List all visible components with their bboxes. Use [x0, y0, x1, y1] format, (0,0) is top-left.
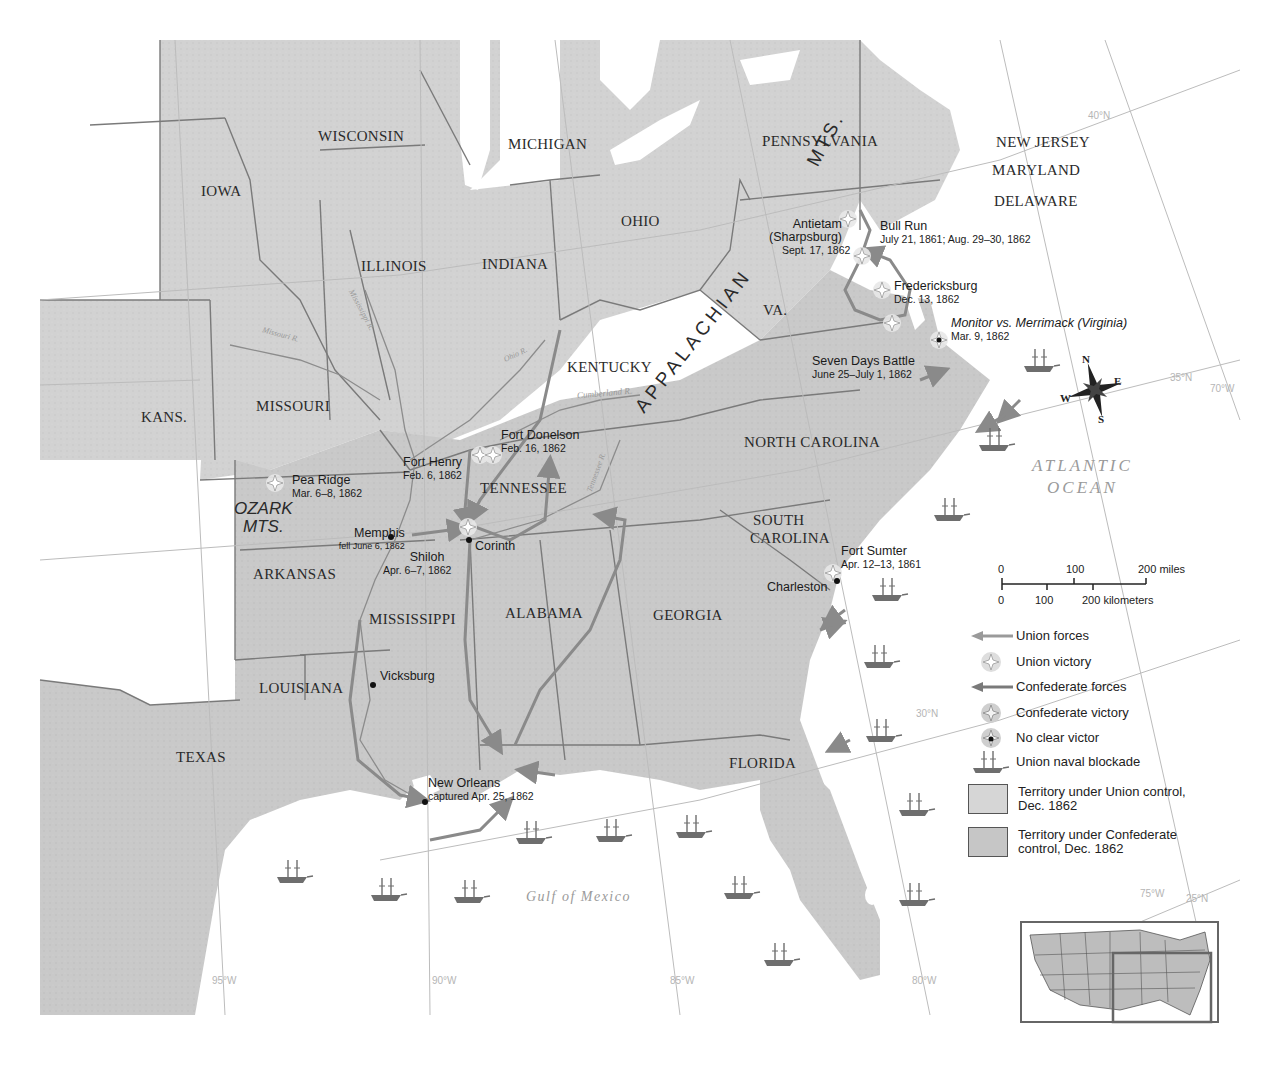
state-label-kansas: KANS.	[141, 409, 187, 426]
battle-label-antietam: Antietam (Sharpsburg) Sept. 17, 1862	[782, 218, 842, 257]
legend-confederate-victory: Confederate victory	[968, 704, 1129, 722]
city-label-charleston: Charleston	[767, 581, 827, 594]
scale-bar	[1002, 578, 1146, 590]
legend-confederate-forces: Confederate forces	[968, 678, 1127, 696]
scale-km-0: 0	[998, 594, 1004, 606]
legend-confederate-territory: Territory under Confederatecontrol, Dec.…	[968, 827, 1177, 857]
state-label-illinois: ILLINOIS	[361, 258, 427, 275]
union-territory-swatch	[968, 784, 1008, 814]
battle-label-pea-ridge: Pea Ridge Mar. 6–8, 1862	[292, 474, 362, 500]
legend-no-clear-victor: No clear victor	[968, 729, 1099, 747]
lon-label-70w: 70°W	[1210, 383, 1235, 394]
compass-s: S	[1098, 413, 1104, 425]
compass-n: N	[1082, 353, 1090, 365]
pea-ridge-marker	[266, 474, 284, 492]
lon-label-90w: 90°W	[432, 975, 457, 986]
legend-union-forces: Union forces	[968, 627, 1089, 645]
scale-miles-100: 100	[1066, 563, 1084, 575]
battle-label-monitor-merrimack: Monitor vs. Merrimack (Virginia) Mar. 9,…	[951, 317, 1127, 343]
fredericksburg-marker	[873, 281, 891, 299]
mountain-label-ozark-mts: MTS.	[243, 518, 284, 536]
scale-miles-0: 0	[998, 563, 1004, 575]
state-label-louisiana: LOUISIANA	[259, 680, 343, 697]
state-label-kentucky: KENTUCKY	[567, 359, 652, 376]
state-label-iowa: IOWA	[201, 183, 241, 200]
battle-label-fredericksburg: Fredericksburg Dec. 13, 1862	[894, 280, 977, 306]
state-label-missouri: MISSOURI	[256, 398, 330, 415]
ship-icon	[968, 753, 1014, 771]
mountain-label-ozark: OZARK	[234, 500, 293, 518]
scale-km-200: 200 kilometers	[1082, 594, 1154, 606]
confederate-territory-swatch	[968, 827, 1008, 857]
battle-label-shiloh: Shiloh Apr. 6–7, 1862	[383, 551, 451, 577]
compass-w: W	[1060, 392, 1071, 404]
city-label-vicksburg: Vicksburg	[380, 670, 435, 683]
city-label-new-orleans: New Orleans captured Apr. 25, 1862	[428, 777, 534, 803]
lat-label-25n: 25°N	[1186, 893, 1208, 904]
scale-km-100: 100	[1035, 594, 1053, 606]
state-label-mississippi: MISSISSIPPI	[369, 611, 456, 628]
state-label-ohio: OHIO	[621, 213, 660, 230]
state-label-georgia: GEORGIA	[653, 607, 723, 624]
state-label-delaware: DELAWARE	[994, 193, 1078, 210]
state-label-tennessee: TENNESSEE	[480, 480, 567, 497]
state-label-south-carolina-1: SOUTH	[753, 512, 805, 529]
state-label-south-carolina-2: CAROLINA	[750, 530, 830, 547]
union-victory-burst-icon	[968, 653, 1014, 671]
battle-label-bull-run: Bull Run July 21, 1861; Aug. 29–30, 1862	[880, 220, 1031, 246]
battle-label-seven-days: Seven Days Battle June 25–July 1, 1862	[812, 355, 915, 381]
city-label-corinth: Corinth	[475, 540, 515, 553]
state-label-arkansas: ARKANSAS	[253, 566, 336, 583]
inset-locator-map	[1021, 922, 1218, 1022]
civil-war-map	[0, 0, 1280, 1083]
no-clear-victor-burst-icon	[968, 729, 1014, 747]
bull-run-marker	[853, 247, 871, 265]
battle-label-fort-sumter: Fort Sumter Apr. 12–13, 1861	[841, 545, 921, 571]
state-label-alabama: ALABAMA	[505, 605, 583, 622]
lon-label-80w: 80°W	[912, 975, 937, 986]
seven-days-marker	[883, 314, 901, 332]
gulf-label-mexico: Gulf of Mexico	[526, 886, 631, 908]
battle-label-fort-henry: Fort Henry Feb. 6, 1862	[403, 456, 462, 482]
legend-naval-blockade: Union naval blockade	[968, 753, 1140, 771]
confederate-victory-burst-icon	[968, 704, 1014, 722]
lon-label-95w: 95°W	[212, 975, 237, 986]
legend-union-victory: Union victory	[968, 653, 1091, 671]
union-arrow-icon	[968, 627, 1014, 645]
state-label-texas: TEXAS	[176, 749, 226, 766]
confederate-arrow-icon	[968, 678, 1014, 696]
lat-label-40n: 40°N	[1088, 110, 1110, 121]
lat-label-30n: 30°N	[916, 708, 938, 719]
battle-label-fort-donelson: Fort Donelson Feb. 16, 1862	[501, 429, 580, 455]
state-label-michigan: MICHIGAN	[508, 136, 587, 153]
shiloh-marker	[459, 518, 477, 536]
compass-e: E	[1114, 375, 1121, 387]
lat-label-35n: 35°N	[1170, 372, 1192, 383]
state-label-maryland: MARYLAND	[992, 162, 1080, 179]
state-label-north-carolina: NORTH CAROLINA	[744, 434, 880, 451]
state-label-indiana: INDIANA	[482, 256, 548, 273]
ocean-label-atlantic: ATLANTIC OCEAN	[1032, 455, 1133, 499]
state-label-wisconsin: WISCONSIN	[318, 128, 404, 145]
legend-union-territory: Territory under Union control,Dec. 1862	[968, 784, 1186, 814]
state-label-florida: FLORIDA	[729, 755, 796, 772]
lon-label-85w: 85°W	[670, 975, 695, 986]
lon-label-75w: 75°W	[1140, 888, 1165, 899]
state-label-new-jersey: NEW JERSEY	[996, 134, 1090, 151]
state-label-virginia: VA.	[763, 302, 787, 319]
fort-donelson-marker	[484, 446, 502, 464]
scale-miles-200: 200 miles	[1138, 563, 1185, 575]
city-label-memphis: Memphis fell June 6, 1862	[330, 527, 405, 553]
